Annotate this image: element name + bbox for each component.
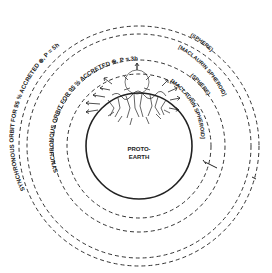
protoearth-orbit-diagram: PROTO- EARTH SYNCHRONOUS ORBIT FOR 95 % … [0,0,272,273]
protoearth-label-line2: EARTH [129,154,150,160]
protoearth-label-line1: PROTO- [127,146,150,152]
outer-sphere-label: (SPHERE) [189,32,214,53]
inner-sphere-label: (SPHERE) [189,72,211,96]
